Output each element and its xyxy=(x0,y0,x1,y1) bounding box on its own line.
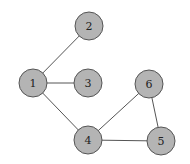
nodes-group: 123456 xyxy=(19,12,175,155)
node-1: 1 xyxy=(19,69,47,97)
node-label: 4 xyxy=(85,134,92,147)
node-6: 6 xyxy=(135,70,163,98)
graph-diagram: 123456 xyxy=(0,0,190,164)
node-label: 1 xyxy=(30,77,37,90)
node-5: 5 xyxy=(147,127,175,155)
node-2: 2 xyxy=(75,12,103,40)
node-3: 3 xyxy=(74,69,102,97)
node-label: 2 xyxy=(86,20,93,33)
node-label: 6 xyxy=(146,78,153,91)
node-4: 4 xyxy=(74,126,102,154)
node-label: 5 xyxy=(158,135,165,148)
node-label: 3 xyxy=(85,77,92,90)
